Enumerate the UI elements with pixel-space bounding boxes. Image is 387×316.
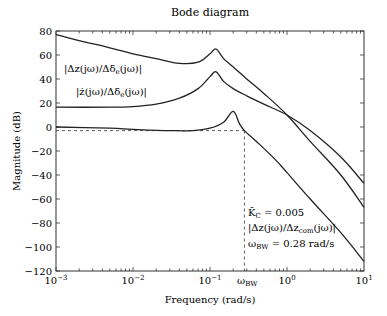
y-tick-label: 60 (39, 50, 52, 61)
x-tick-label: 10−1 (198, 274, 221, 286)
annotation-dz-dzcom: |Δz(jω)/Δzcom(jω)| (248, 222, 336, 235)
y-tick-label: −80 (31, 218, 52, 229)
annotation-dz-dde: |Δz(jω)/Δδe(jω)| (64, 63, 142, 76)
x-tick-label: 10−2 (121, 274, 144, 286)
y-tick-label: 80 (39, 26, 52, 37)
x-tick-label: 101 (355, 274, 372, 286)
y-tick-labels: 806040200−20−40−60−80−100−120 (25, 26, 52, 277)
y-tick-label: −60 (31, 194, 52, 205)
x-axis-label: Frequency (rad/s) (165, 294, 256, 305)
x-tick-label: 100 (278, 274, 295, 286)
y-tick-label: 40 (39, 74, 52, 85)
y-tick-label: −40 (31, 170, 52, 181)
annotation-kc: K̄C = 0.005 (248, 207, 304, 220)
y-tick-label: 0 (46, 122, 52, 133)
reference-lines (56, 131, 244, 271)
y-axis-label: Magnitude (dB) (11, 111, 22, 191)
x-tick-label: 10−3 (44, 274, 67, 286)
series-line-0 (56, 35, 364, 208)
y-tick-label: 20 (39, 98, 52, 109)
y-tick-label: −100 (25, 242, 52, 253)
bode-chart: Bode diagram 806040200−20−40−60−80−100−1… (0, 0, 387, 316)
y-tick-label: −20 (31, 146, 52, 157)
omega-bw-axis-label: ωBW (237, 275, 258, 288)
chart-title: Bode diagram (171, 6, 250, 19)
x-tick-labels: 10−310−210−1100101 (44, 274, 372, 286)
annotation-zdot-dde: |ż(jω)/Δδe(jω)| (76, 86, 147, 99)
annotation-omega-bw-value: ωBW = 0.28 rad/s (248, 238, 334, 251)
